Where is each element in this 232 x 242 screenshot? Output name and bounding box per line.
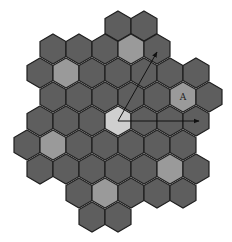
hex-cell — [92, 130, 118, 160]
hex-cell — [105, 58, 131, 88]
hex-cell — [105, 202, 131, 232]
hex-cell-highlighted — [92, 178, 118, 208]
hex-cell — [79, 202, 105, 232]
hex-lattice-diagram: A — [0, 0, 232, 242]
hex-cell — [131, 154, 157, 184]
hex-cell — [92, 82, 118, 112]
hex-cell-highlighted — [157, 154, 183, 184]
hex-cell — [118, 178, 144, 208]
hex-cell — [79, 154, 105, 184]
hex-cell — [157, 58, 183, 88]
hex-cell — [79, 58, 105, 88]
hex-cell — [183, 154, 209, 184]
hex-cell — [144, 178, 170, 208]
hex-cell — [131, 58, 157, 88]
hex-label-a: A — [179, 92, 187, 102]
hex-cell — [14, 130, 40, 160]
hex-cell — [53, 154, 79, 184]
hex-cell — [170, 178, 196, 208]
hex-cell — [27, 154, 53, 184]
hex-cell — [66, 178, 92, 208]
hex-cell-highlighted — [53, 58, 79, 88]
hex-cell — [118, 130, 144, 160]
hex-cell — [196, 82, 222, 112]
hex-cell — [183, 58, 209, 88]
hex-cell — [79, 106, 105, 136]
hex-cell — [40, 34, 66, 64]
hex-cell — [27, 58, 53, 88]
hex-cell — [105, 154, 131, 184]
hex-cell — [144, 82, 170, 112]
hex-cell — [144, 130, 170, 160]
hex-cell — [66, 130, 92, 160]
hex-cell-highlighted — [40, 130, 66, 160]
hex-cell — [66, 34, 92, 64]
hex-cell — [40, 82, 66, 112]
hex-cell — [66, 82, 92, 112]
hex-cell — [170, 130, 196, 160]
hex-cell — [27, 106, 53, 136]
hex-cell — [53, 106, 79, 136]
